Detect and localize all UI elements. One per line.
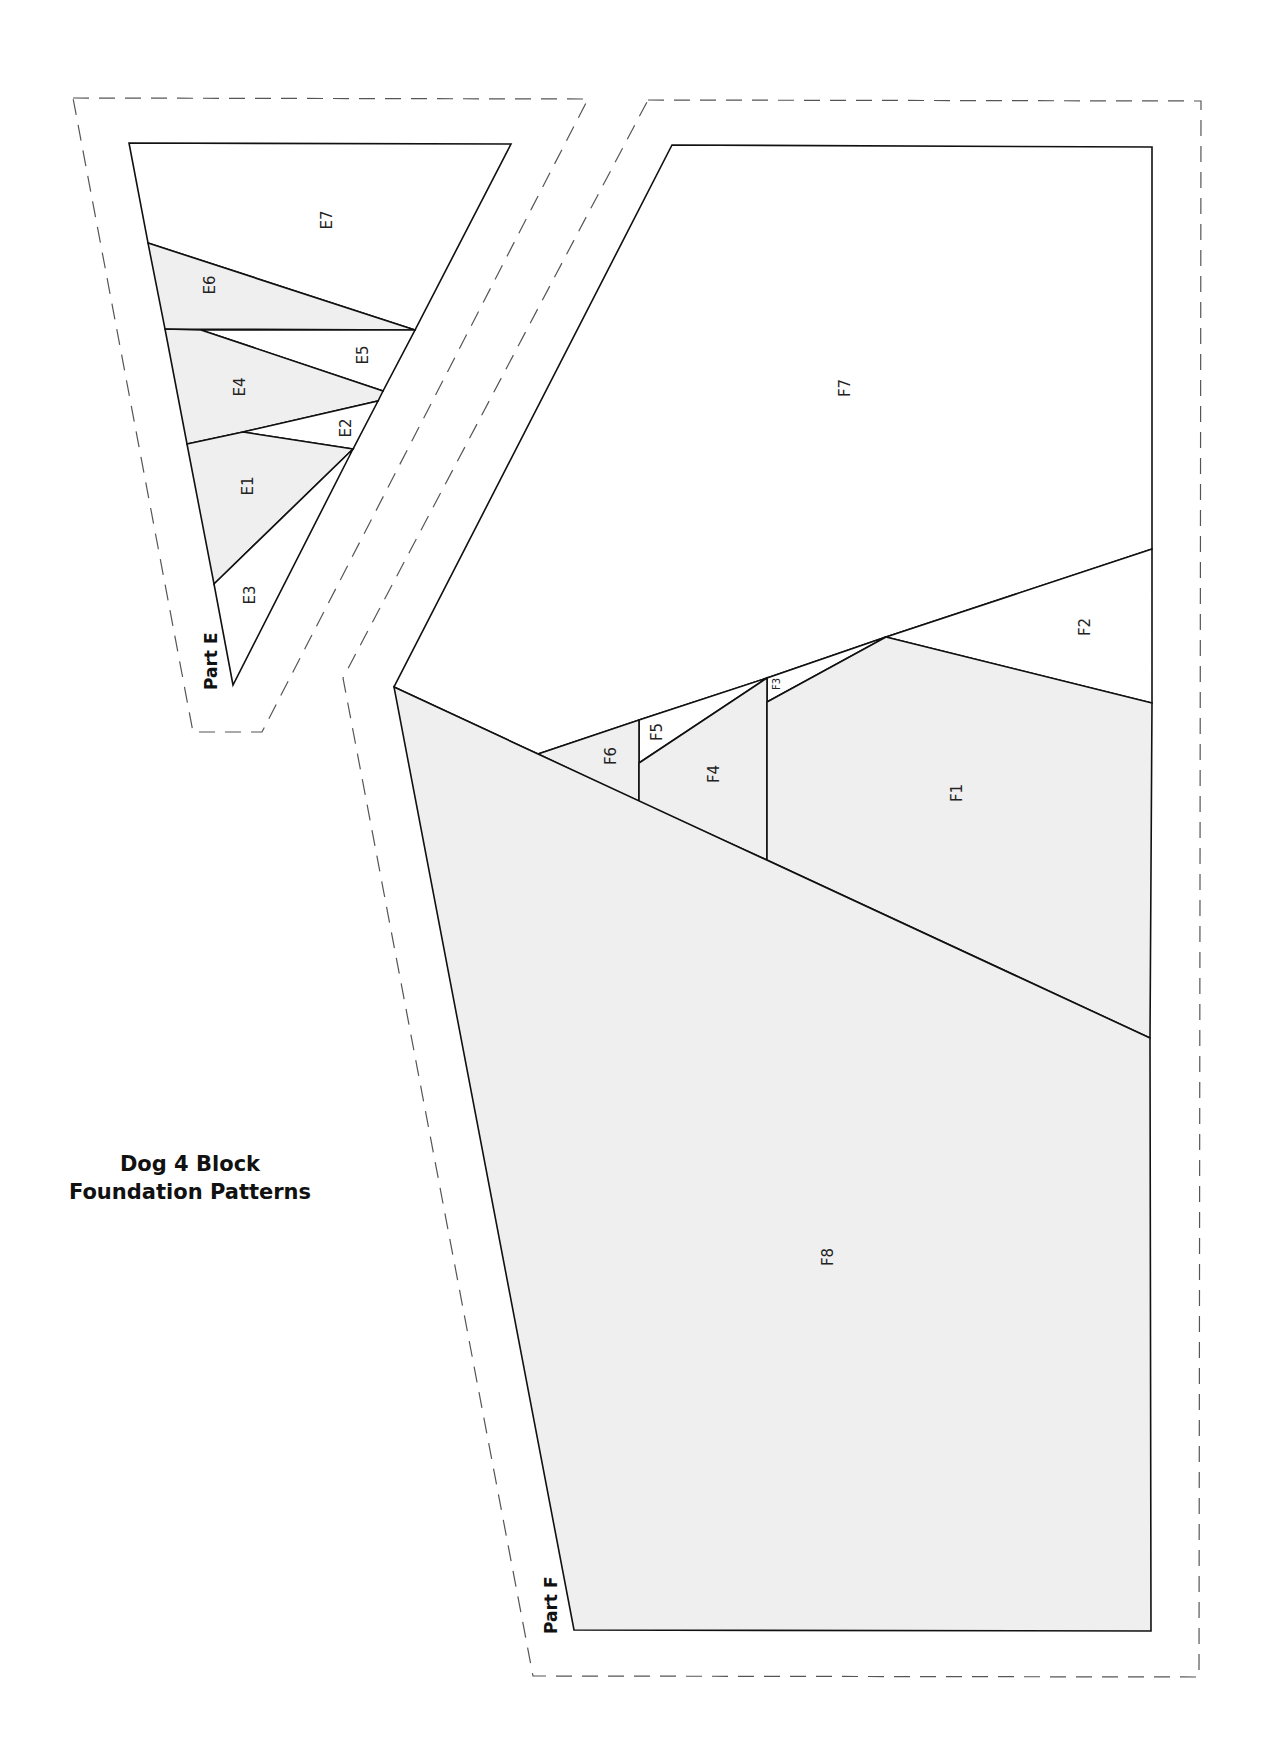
piece-label-e7: E7 (318, 210, 336, 229)
part-f-pieces (394, 145, 1152, 1631)
piece-label-e2: E2 (337, 418, 355, 437)
part-f-label: Part F (541, 1576, 561, 1634)
piece-label-f2: F2 (1076, 618, 1094, 636)
part-f-pattern: F7F2F3F5F6F4F1F8 (343, 100, 1201, 1677)
piece-label-f8: F8 (819, 1248, 837, 1266)
piece-label-f7: F7 (836, 379, 854, 397)
piece-label-f5: F5 (648, 723, 666, 741)
foundation-pattern-diagram: E7E6E5E4E2E1E3 F7F2F3F5F6F4F1F8 Part E P… (0, 0, 1267, 1759)
part-e-label: Part E (201, 632, 221, 690)
pattern-title: Dog 4 Block Foundation Patterns (40, 1150, 340, 1206)
piece-label-e6: E6 (201, 275, 219, 294)
title-line-2: Foundation Patterns (40, 1178, 340, 1206)
piece-label-e4: E4 (231, 377, 249, 396)
piece-label-e5: E5 (354, 345, 372, 364)
piece-label-f1: F1 (948, 784, 966, 802)
piece-label-f4: F4 (705, 765, 723, 783)
piece-label-f6: F6 (602, 747, 620, 765)
piece-label-e3: E3 (241, 585, 259, 604)
piece-label-f3: F3 (771, 678, 782, 690)
title-line-1: Dog 4 Block (40, 1150, 340, 1178)
piece-label-e1: E1 (239, 476, 257, 495)
